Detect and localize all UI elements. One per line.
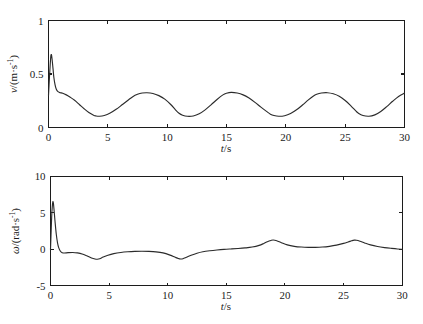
velocity-panel: 051015202530 00.51 t/s v/(m·s-1) xyxy=(0,0,423,162)
angular-velocity-panel: 051015202530 -50510 t/s ω/(rad·s-1) xyxy=(0,160,423,324)
x-tick-label: 5 xyxy=(105,131,111,143)
axis-ticks xyxy=(49,21,405,128)
x-tick-labels: 051015202530 xyxy=(48,289,408,301)
x-axis-title: t/s xyxy=(221,142,231,154)
x-tick-label: 25 xyxy=(338,289,349,301)
x-tick-labels: 051015202530 xyxy=(46,131,411,143)
y-axis-title: ω/(rad·s-1) xyxy=(8,208,22,254)
axis-ticks xyxy=(50,176,402,286)
two-panel-figure: 051015202530 00.51 t/s v/(m·s-1) 0510152… xyxy=(0,0,423,324)
velocity-plot-svg: 051015202530 00.51 t/s v/(m·s-1) xyxy=(0,0,423,162)
x-tick-label: 20 xyxy=(280,131,292,143)
y-tick-label: 0.5 xyxy=(30,68,44,80)
x-tick-label: 10 xyxy=(162,131,174,143)
x-tick-label: 20 xyxy=(279,289,290,301)
y-tick-label: 10 xyxy=(35,170,46,182)
x-tick-label: 25 xyxy=(340,131,352,143)
y-tick-label: 0 xyxy=(38,122,44,134)
x-tick-label: 10 xyxy=(162,289,173,301)
x-tick-label: 5 xyxy=(106,289,111,301)
y-axis-title: v/(m·s-1) xyxy=(6,55,20,93)
y-tick-labels: 00.51 xyxy=(30,15,44,134)
y-tick-label: 1 xyxy=(38,15,44,27)
x-tick-label: 0 xyxy=(46,131,52,143)
x-tick-label: 15 xyxy=(221,289,232,301)
y-tick-label: 5 xyxy=(40,207,45,219)
plot-frame xyxy=(49,21,405,128)
angular-velocity-plot-svg: 051015202530 -50510 t/s ω/(rad·s-1) xyxy=(0,160,423,322)
velocity-curve xyxy=(49,54,405,116)
x-tick-label: 30 xyxy=(397,289,408,301)
x-tick-label: 0 xyxy=(48,289,54,301)
y-tick-label: -5 xyxy=(37,280,46,292)
x-axis-title: t/s xyxy=(221,300,231,312)
y-tick-labels: -50510 xyxy=(35,170,46,292)
x-tick-label: 30 xyxy=(399,131,411,143)
angular-velocity-curve xyxy=(50,202,402,260)
plot-frame xyxy=(50,176,402,286)
y-tick-label: 0 xyxy=(40,243,46,255)
x-tick-label: 15 xyxy=(221,131,233,143)
